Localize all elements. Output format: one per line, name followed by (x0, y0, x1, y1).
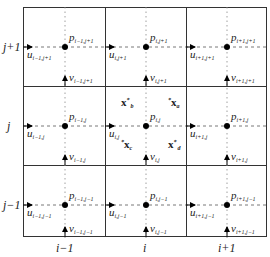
svg-text:pi,j−1: pi,j−1 (149, 189, 167, 202)
svg-text:vi−1,j+1: vi−1,j+1 (69, 71, 93, 84)
svg-text:ui+1,j: ui+1,j (190, 127, 208, 140)
svg-text:vi,j−1: vi,j−1 (150, 222, 167, 235)
row-label: j+1 (1, 40, 20, 54)
col-labels: i−1 i i+1 (56, 241, 235, 255)
svg-text:ui,j+1: ui,j+1 (109, 48, 126, 61)
svg-text:vi,j: vi,j (150, 150, 160, 163)
svg-text:ui−1,j+1: ui−1,j+1 (27, 48, 51, 61)
svg-text:vi+1,j: vi+1,j (231, 150, 248, 163)
svg-text:pi,j: pi,j (149, 110, 161, 123)
svg-text:pi+1,j+1: pi+1,j+1 (230, 31, 255, 44)
particle-c: *xc (121, 138, 133, 151)
svg-text:pi,j+1: pi,j+1 (149, 31, 167, 44)
particle-labels: x*b *xa *xc x*d (121, 96, 182, 151)
svg-text:pi−1,j−1: pi−1,j−1 (68, 189, 93, 202)
svg-text:pi+1,j−1: pi+1,j−1 (230, 189, 255, 202)
col-label: i+1 (218, 241, 235, 255)
row-labels: j+1 j j−1 (1, 40, 20, 212)
particle-b: x*b (121, 96, 134, 109)
svg-text:ui+1,j+1: ui+1,j+1 (190, 48, 214, 61)
svg-text:pi+1,j: pi+1,j (230, 110, 249, 123)
svg-text:vi−1,j−1: vi−1,j−1 (69, 222, 93, 235)
svg-text:vi,j+1: vi,j+1 (150, 71, 167, 84)
svg-text:ui,j−1: ui,j−1 (109, 206, 126, 219)
svg-text:ui−1,j−1: ui−1,j−1 (27, 206, 51, 219)
svg-text:pi−1,j: pi−1,j (68, 110, 87, 123)
svg-text:vi+1,j−1: vi+1,j−1 (231, 222, 255, 235)
row-label: j−1 (1, 198, 20, 212)
svg-text:ui−1,j: ui−1,j (27, 127, 45, 140)
col-label: i−1 (56, 241, 73, 255)
row-label: j (5, 119, 11, 133)
svg-text:pi−1,j+1: pi−1,j+1 (68, 31, 93, 44)
svg-text:ui+1,j−1: ui+1,j−1 (190, 206, 214, 219)
col-label: i (143, 241, 146, 255)
svg-text:vi−1,j: vi−1,j (69, 150, 86, 163)
svg-text:ui,j: ui,j (109, 127, 120, 140)
staggered-grid-diagram: j+1 j j−1 i−1 i i+1 pi−1,j+1 pi,j+1 pi+1… (0, 0, 270, 257)
particle-d: x*d (168, 138, 182, 151)
particle-a: *xa (168, 96, 180, 109)
svg-text:vi+1,j+1: vi+1,j+1 (231, 71, 255, 84)
